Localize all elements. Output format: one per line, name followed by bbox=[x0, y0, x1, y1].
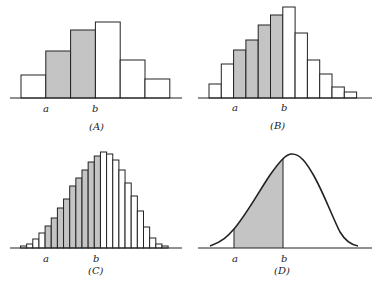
histogram-bar bbox=[100, 152, 106, 248]
histogram-bar bbox=[150, 238, 156, 248]
panel-c-caption: (C) bbox=[88, 265, 104, 276]
histogram-bar bbox=[145, 79, 170, 98]
panel-c-marker-a: a bbox=[43, 253, 49, 264]
histogram-bar bbox=[88, 162, 94, 248]
panel-d-marker-a: a bbox=[232, 253, 238, 264]
histogram-bar bbox=[125, 183, 131, 248]
histogram-bar bbox=[107, 154, 113, 248]
histogram-bar bbox=[271, 15, 283, 98]
histogram-bar bbox=[46, 51, 71, 98]
histogram-bar bbox=[246, 40, 258, 98]
shaded-area bbox=[234, 159, 283, 248]
histogram-bar bbox=[45, 226, 51, 248]
panel-a-caption: (A) bbox=[89, 121, 104, 132]
histogram-bar bbox=[95, 22, 120, 98]
histogram-bar bbox=[137, 211, 143, 248]
histogram-bar bbox=[119, 170, 125, 248]
histogram-bar bbox=[209, 84, 221, 98]
panel-d-density-curve bbox=[198, 154, 372, 248]
panel-c-marker-b: b bbox=[93, 253, 99, 264]
panel-b-caption: (B) bbox=[270, 120, 285, 131]
histogram-bar bbox=[144, 227, 150, 248]
histogram-bar bbox=[64, 199, 70, 248]
histogram-bar bbox=[21, 75, 46, 98]
panel-b-marker-b: b bbox=[281, 102, 287, 113]
histogram-bar bbox=[320, 74, 332, 98]
panel-d-caption: (D) bbox=[274, 265, 290, 276]
histogram-bar bbox=[57, 208, 63, 248]
histogram-bar bbox=[82, 170, 88, 248]
histogram-bar bbox=[258, 25, 270, 98]
histogram-bar bbox=[344, 92, 356, 98]
histogram-bar bbox=[76, 178, 82, 248]
histogram-bar bbox=[221, 64, 233, 98]
histogram-bar bbox=[113, 160, 119, 248]
panel-a-histogram bbox=[10, 22, 182, 98]
panel-b-histogram bbox=[198, 7, 372, 98]
histogram-bar bbox=[234, 50, 246, 98]
histogram-bar bbox=[295, 33, 307, 98]
histogram-bar bbox=[39, 233, 45, 248]
panel-a-marker-b: b bbox=[92, 103, 98, 114]
histogram-bar bbox=[283, 7, 295, 98]
density-curve bbox=[210, 154, 358, 246]
histogram-bar bbox=[120, 60, 145, 98]
histogram-bar bbox=[51, 218, 57, 248]
panel-d-marker-b: b bbox=[281, 253, 287, 264]
panel-b-marker-a: a bbox=[232, 102, 238, 113]
panel-a-marker-a: a bbox=[43, 103, 49, 114]
panel-c-histogram bbox=[10, 152, 182, 248]
histogram-bar bbox=[70, 186, 76, 248]
histogram-bar bbox=[33, 239, 39, 248]
histogram-bar bbox=[131, 196, 137, 248]
figure: a b (A) a b (B) a b (C) a b (D) bbox=[0, 0, 383, 284]
histogram-bar bbox=[71, 30, 96, 98]
histogram-bar bbox=[307, 60, 319, 98]
histogram-bar bbox=[94, 156, 100, 248]
histogram-bar bbox=[332, 87, 344, 98]
